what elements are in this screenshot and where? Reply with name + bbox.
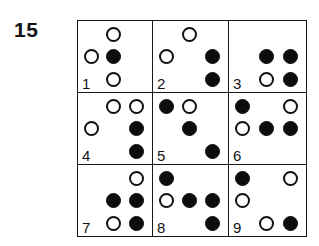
cell-label: 6 xyxy=(233,148,241,163)
empty-slot xyxy=(259,144,274,159)
dot-slot-r1-c1 xyxy=(155,23,178,46)
filled-circle-icon xyxy=(205,216,220,231)
dot-slot-r2-c3 xyxy=(278,190,302,213)
dot-slot-r1-c2 xyxy=(178,167,201,190)
dot-slot-r3-c3 xyxy=(125,140,148,163)
cell-label: 1 xyxy=(82,76,90,91)
cell-label: 8 xyxy=(157,220,165,235)
dot-slot-r1-c3 xyxy=(125,23,148,46)
filled-circle-icon xyxy=(159,99,174,114)
matrix-cell-6[interactable]: 6 xyxy=(229,93,306,165)
open-circle-icon xyxy=(235,121,250,136)
dot-slot-r3-c3 xyxy=(201,140,224,163)
dot-slot-r3-c2 xyxy=(103,212,126,235)
empty-slot xyxy=(159,121,174,136)
matrix-cell-8[interactable]: 8 xyxy=(153,165,229,236)
open-circle-icon xyxy=(235,193,250,208)
filled-circle-icon xyxy=(129,144,144,159)
dot-slot-r3-c2 xyxy=(178,212,201,235)
dot-slot-r1-c2 xyxy=(178,23,201,46)
dot-slot-r1-c2 xyxy=(255,95,279,118)
empty-slot xyxy=(84,99,99,114)
filled-circle-icon xyxy=(205,72,220,87)
matrix-cell-5[interactable]: 5 xyxy=(153,93,229,165)
matrix-cell-2[interactable]: 2 xyxy=(153,21,229,93)
dot-slot-r2-c2 xyxy=(255,190,279,213)
dot-slot-r1-c2 xyxy=(103,95,126,118)
dot-slot-r3-c3 xyxy=(125,212,148,235)
empty-slot xyxy=(283,144,298,159)
matrix-cell-7[interactable]: 7 xyxy=(78,165,153,236)
filled-circle-icon xyxy=(235,171,250,186)
cell-label: 5 xyxy=(157,148,165,163)
dot-slot-r1-c1 xyxy=(231,167,255,190)
dot-slot-r2-c1 xyxy=(155,118,178,141)
dot-slot-r3-c3 xyxy=(278,212,302,235)
empty-slot xyxy=(84,27,99,42)
dot-slot-r2-c2 xyxy=(255,46,279,69)
dot-slot-r2-c3 xyxy=(201,190,224,213)
empty-slot xyxy=(182,144,197,159)
open-circle-icon xyxy=(259,72,274,87)
open-circle-icon xyxy=(129,171,144,186)
dot-slot-r3-c2 xyxy=(255,140,279,163)
matrix-cell-9[interactable]: 9 xyxy=(229,165,306,236)
filled-circle-icon xyxy=(259,121,274,136)
filled-circle-icon xyxy=(235,99,250,114)
dot-slot-r1-c3 xyxy=(201,23,224,46)
matrix-cell-1[interactable]: 1 xyxy=(78,21,153,93)
empty-slot xyxy=(235,49,250,64)
empty-slot xyxy=(129,49,144,64)
filled-circle-icon xyxy=(283,72,298,87)
empty-slot xyxy=(182,171,197,186)
dot-slot-r2-c2 xyxy=(103,118,126,141)
dot-slot-r3-c3 xyxy=(201,68,224,91)
filled-circle-icon xyxy=(283,49,298,64)
dot-slot-r2-c3 xyxy=(201,46,224,69)
dot-slot-r1-c2 xyxy=(103,23,126,46)
cell-label: 4 xyxy=(82,148,90,163)
empty-slot xyxy=(283,27,298,42)
filled-circle-icon xyxy=(182,121,197,136)
dot-slot-r1-c1 xyxy=(231,95,255,118)
dot-slot-r3-c2 xyxy=(103,68,126,91)
cell-label: 3 xyxy=(233,76,241,91)
filled-circle-icon xyxy=(205,193,220,208)
dot-slot-r1-c1 xyxy=(155,167,178,190)
dot-slot-r1-c1 xyxy=(231,23,255,46)
empty-slot xyxy=(182,216,197,231)
dot-slot-r2-c1 xyxy=(155,46,178,69)
dot-slot-r1-c2 xyxy=(103,167,126,190)
dot-slot-r2-c1 xyxy=(231,118,255,141)
dot-slot-r2-c1 xyxy=(155,190,178,213)
dot-slot-r2-c3 xyxy=(125,118,148,141)
matrix-cell-3[interactable]: 3 xyxy=(229,21,306,93)
empty-slot xyxy=(259,171,274,186)
dot-slot-r2-c3 xyxy=(201,118,224,141)
open-circle-icon xyxy=(259,216,274,231)
open-circle-icon xyxy=(106,216,121,231)
dot-slot-r1-c2 xyxy=(178,95,201,118)
empty-slot xyxy=(106,171,121,186)
filled-circle-icon xyxy=(129,193,144,208)
dot-slot-r1-c3 xyxy=(278,23,302,46)
open-circle-icon xyxy=(129,99,144,114)
dot-slot-r2-c2 xyxy=(255,118,279,141)
open-circle-icon xyxy=(283,99,298,114)
filled-circle-icon xyxy=(283,121,298,136)
cell-label: 2 xyxy=(157,76,165,91)
dot-slot-r2-c3 xyxy=(125,46,148,69)
dot-slot-r1-c3 xyxy=(125,167,148,190)
filled-circle-icon xyxy=(205,49,220,64)
dot-slot-r1-c3 xyxy=(125,95,148,118)
dot-slot-r2-c1 xyxy=(231,190,255,213)
matrix-cell-4[interactable]: 4 xyxy=(78,93,153,165)
dot-slot-r2-c1 xyxy=(80,190,103,213)
empty-slot xyxy=(159,27,174,42)
dot-slot-r2-c1 xyxy=(231,46,255,69)
dot-slot-r1-c1 xyxy=(155,95,178,118)
dot-slot-r3-c3 xyxy=(201,212,224,235)
empty-slot xyxy=(129,27,144,42)
dot-slot-r1-c1 xyxy=(80,95,103,118)
dot-slot-r2-c2 xyxy=(178,190,201,213)
